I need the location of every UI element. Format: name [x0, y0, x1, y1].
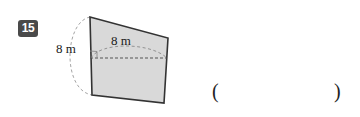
worksheet-problem-canvas: 15 8 m 8 m ( ) — [0, 0, 360, 117]
slant-height-label: 8 m — [56, 41, 76, 57]
geometry-figure — [0, 0, 360, 117]
top-width-label: 8 m — [111, 33, 131, 49]
answer-close-paren: ) — [334, 80, 341, 103]
answer-open-paren: ( — [212, 80, 219, 103]
prism-face-polygon — [90, 17, 168, 103]
